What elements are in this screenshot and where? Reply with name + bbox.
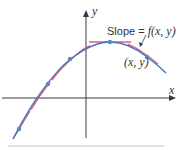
y-axis-arrow-icon: [83, 10, 89, 17]
diagram-canvas: y x Slope = f(x, y) (x, y): [0, 0, 179, 150]
point-label: (x, y): [124, 56, 149, 68]
x-axis-label: x: [169, 84, 174, 96]
slope-prefix: Slope =: [107, 25, 148, 37]
y-axis-label: y: [92, 5, 97, 17]
solution-points: [17, 40, 149, 131]
slope-annotation: Slope = f(x, y): [107, 22, 176, 38]
slope-function: f(x, y): [148, 24, 176, 38]
